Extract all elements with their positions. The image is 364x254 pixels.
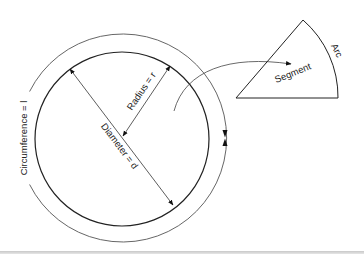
circumference-label: Circumference = l (18, 101, 29, 176)
diameter-line (70, 69, 173, 205)
circle-parts-diagram: Circumference = l Radius = r Diameter = … (0, 0, 364, 254)
circumference-outer-circle (30, 34, 227, 242)
segment-sector-shape (236, 20, 338, 98)
diameter-label: Diameter = d (99, 121, 141, 171)
segment-label: Segment (273, 60, 313, 85)
arc-label: Arc (329, 41, 346, 59)
